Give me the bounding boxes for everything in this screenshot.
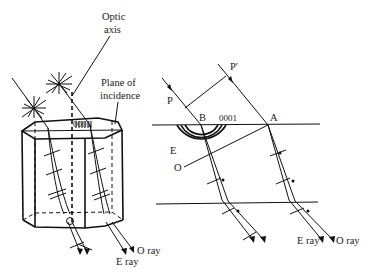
tangent-line bbox=[184, 125, 268, 167]
unpolarized-light-icon bbox=[22, 96, 46, 118]
unpolarized-light-icon bbox=[46, 72, 72, 94]
exit-e-b bbox=[222, 200, 253, 240]
refracted-o-a bbox=[268, 125, 295, 201]
o-ray-label: O ray bbox=[336, 235, 360, 246]
exit-e-a bbox=[289, 200, 322, 240]
p-label: P bbox=[167, 95, 173, 106]
arrow-head bbox=[129, 246, 134, 253]
polarization-marks-b bbox=[207, 178, 256, 240]
o-ray-label: O ray bbox=[137, 245, 161, 256]
optic-axis-label-1: Optic bbox=[102, 11, 126, 22]
crystal-edge-right bbox=[122, 130, 123, 220]
crystal-edge-left bbox=[22, 131, 23, 220]
a-label: A bbox=[270, 112, 278, 123]
arrow-head bbox=[249, 236, 255, 243]
crystal-figure: Optic axis Plane of incidence 0001 O ray… bbox=[12, 11, 161, 267]
plane-pointer bbox=[115, 102, 118, 124]
refracted-e-a bbox=[268, 125, 289, 200]
e-ray-label: E ray bbox=[116, 256, 139, 267]
e-ray-label: E ray bbox=[297, 235, 320, 246]
polarization-mark bbox=[70, 242, 84, 248]
birefringence-diagram: Optic axis Plane of incidence 0001 O ray… bbox=[0, 0, 372, 276]
arrow-head bbox=[329, 236, 335, 243]
wavefront-figure: P′ P B 0001 A E O E ray O ray bbox=[152, 61, 360, 246]
b-label: B bbox=[199, 112, 206, 123]
plane-label-2: incidence bbox=[100, 90, 141, 101]
face-label: 0001 bbox=[73, 119, 91, 129]
incident-wavefront bbox=[185, 76, 226, 108]
exit-o-b bbox=[228, 201, 264, 240]
inner-ray-o-left bbox=[48, 128, 70, 214]
p-prime-label: P′ bbox=[230, 61, 238, 72]
arrow-head bbox=[121, 248, 127, 255]
bottom-surface bbox=[156, 202, 318, 204]
top-surface bbox=[152, 124, 320, 125]
polarization-marks-a bbox=[270, 150, 310, 214]
arrow-head bbox=[77, 248, 83, 255]
refracted-e-b bbox=[201, 125, 222, 200]
plane-label-1: Plane of bbox=[101, 77, 136, 88]
arrow-head bbox=[260, 236, 266, 243]
optic-axis-label-2: axis bbox=[104, 24, 121, 35]
polarization-marks-right bbox=[88, 148, 110, 200]
e-label: E bbox=[170, 145, 176, 156]
o-label: O bbox=[174, 162, 182, 173]
face-label: 0001 bbox=[219, 113, 237, 123]
